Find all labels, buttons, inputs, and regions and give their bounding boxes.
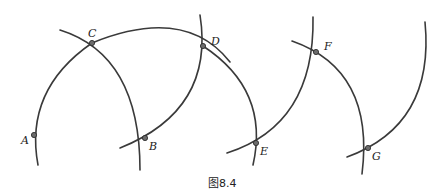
point-c (89, 40, 94, 45)
label-f: F (323, 40, 332, 53)
point-g (365, 145, 370, 150)
arc-C-B (60, 30, 140, 170)
point-e (253, 140, 258, 145)
label-a: A (20, 134, 29, 147)
label-d: D (210, 35, 220, 48)
arc-G-top (347, 22, 426, 157)
label-e: E (259, 145, 268, 158)
point-b (142, 135, 147, 140)
figure-caption: 图8.4 (208, 174, 237, 190)
point-a (31, 132, 36, 137)
arc-A-C (36, 43, 92, 165)
arc-D-B (120, 15, 202, 148)
arc-C-D-E (92, 28, 230, 62)
label-c: C (88, 27, 97, 40)
point-f (313, 49, 318, 54)
construction-diagram: ABCDEFG (0, 0, 448, 193)
arc-D-E (203, 46, 256, 165)
label-g: G (372, 150, 381, 163)
arc-E-F (227, 17, 313, 153)
label-b: B (148, 140, 157, 153)
point-d (200, 43, 205, 48)
